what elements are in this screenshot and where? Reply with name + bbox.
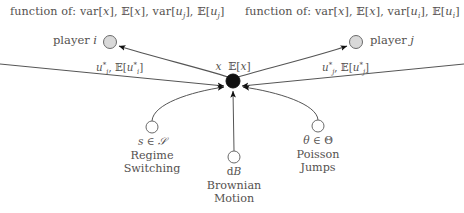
- edge-poisson-to-hub: [243, 87, 318, 120]
- left-function-of-prefix: function of:: [10, 5, 76, 18]
- hub-label: x 𝔼[x]: [215, 60, 250, 72]
- poisson-jumps-name-line2: Jumps: [297, 162, 340, 175]
- player-j-name: player: [370, 33, 407, 47]
- edge-brownian-to-hub: [233, 91, 234, 151]
- player-i-name: player: [53, 33, 90, 47]
- regime-switching-symbol: s ∈ 𝒮: [138, 135, 166, 147]
- player-j-label: player j: [370, 34, 414, 47]
- brownian-motion-name: Brownian Motion: [207, 180, 262, 206]
- diagram-canvas: function of: var[x], 𝔼[x], var[uj], 𝔼[uj…: [0, 0, 464, 213]
- left-function-of-expression: var[x], 𝔼[x], var[uj], 𝔼[uj]: [80, 5, 225, 18]
- poisson-jumps-symbol: θ ∈ Θ: [303, 134, 333, 146]
- left-function-of-label: function of: var[x], 𝔼[x], var[uj], 𝔼[uj…: [10, 6, 225, 21]
- right-function-of-prefix: function of:: [245, 5, 311, 18]
- poisson-jumps-name-line1: Poisson: [297, 149, 340, 162]
- right-function-of-expression: var[x], 𝔼[x], var[ui], 𝔼[ui]: [315, 5, 460, 18]
- player-i-label: player i: [53, 34, 97, 47]
- node-hub[interactable]: [226, 74, 240, 88]
- poisson-jumps-name: Poisson Jumps: [297, 149, 340, 175]
- node-brownian-motion[interactable]: [228, 151, 240, 163]
- regime-switching-name: Regime Switching: [124, 150, 181, 176]
- node-player-j[interactable]: [350, 36, 363, 49]
- edge-label-hub-to-player-j: u*j, 𝔼[u*j]: [322, 61, 369, 77]
- brownian-motion-name-line1: Brownian: [207, 180, 262, 193]
- regime-switching-name-line2: Switching: [124, 163, 181, 176]
- brownian-motion-name-line2: Motion: [207, 193, 262, 206]
- regime-switching-name-line1: Regime: [124, 150, 181, 163]
- player-j-index: j: [410, 33, 414, 47]
- node-poisson-jumps[interactable]: [312, 120, 324, 132]
- edge-regime-to-hub: [152, 87, 224, 121]
- node-regime-switching[interactable]: [146, 121, 158, 133]
- node-player-i[interactable]: [104, 36, 117, 49]
- edge-label-hub-to-player-i: u*i, 𝔼[u*i]: [96, 61, 143, 77]
- brownian-motion-symbol: dB: [227, 165, 242, 177]
- right-function-of-label: function of: var[x], 𝔼[x], var[ui], 𝔼[ui…: [245, 6, 460, 21]
- player-i-index: i: [93, 33, 97, 47]
